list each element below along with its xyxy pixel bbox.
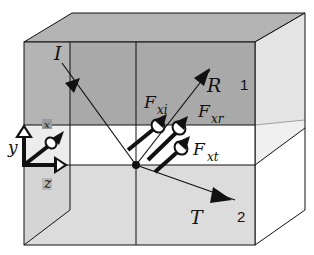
label-medium-2: 2 bbox=[237, 208, 245, 225]
svg-text:xr: xr bbox=[211, 112, 225, 126]
label-y-axis: y bbox=[7, 137, 18, 157]
interface-diagram: I R T 1 2 F xi F xr F xt y z x bbox=[0, 0, 314, 255]
svg-text:xi: xi bbox=[157, 103, 168, 117]
label-z-axis: z bbox=[43, 175, 52, 191]
svg-text:F: F bbox=[143, 92, 157, 112]
label-transmitted: T bbox=[190, 206, 204, 228]
svg-text:F: F bbox=[192, 139, 206, 159]
origin-point bbox=[132, 161, 140, 169]
label-incident: I bbox=[53, 42, 62, 64]
svg-text:F: F bbox=[197, 101, 211, 121]
label-reflected: R bbox=[206, 74, 221, 96]
label-x-axis: x bbox=[44, 119, 50, 130]
label-medium-1: 1 bbox=[240, 76, 248, 93]
svg-text:xt: xt bbox=[207, 150, 219, 164]
